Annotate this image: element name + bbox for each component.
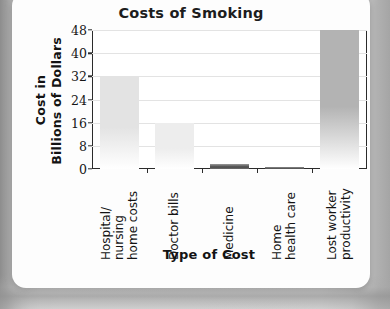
y-axis-title-line-2: Billions of Dollars xyxy=(49,37,64,165)
y-tick-label: 32 xyxy=(71,69,87,84)
bar-slot xyxy=(257,30,312,169)
bar-slot xyxy=(202,30,257,169)
bar xyxy=(210,164,250,169)
bar-slot xyxy=(147,30,202,169)
x-tick-mark xyxy=(312,169,313,173)
bar-slot xyxy=(92,30,147,169)
bar xyxy=(265,167,305,169)
y-tick-label: 24 xyxy=(71,92,87,107)
bar xyxy=(320,30,360,169)
bar-slot xyxy=(312,30,367,169)
y-tick-label: 40 xyxy=(71,46,87,61)
figure-card: Costs of Smoking Cost in Billions of Dol… xyxy=(12,0,370,288)
y-tick-label: 48 xyxy=(71,23,87,38)
bar xyxy=(100,76,140,169)
x-axis-title-text: Type of Cost xyxy=(127,247,255,262)
y-tick-label: 8 xyxy=(79,138,87,153)
x-tick-mark xyxy=(257,169,258,173)
y-axis-title: Cost in Billions of Dollars xyxy=(26,28,70,173)
y-axis-title-line-1: Cost in xyxy=(33,75,48,125)
bar xyxy=(155,123,195,169)
y-tick-label: 0 xyxy=(79,162,87,177)
x-axis-title: Type of Cost xyxy=(12,247,370,262)
plot-wrapper: 081624324048 xyxy=(92,30,367,169)
y-tick-label: 16 xyxy=(71,115,87,130)
x-tick-mark xyxy=(147,169,148,173)
x-tick-mark xyxy=(202,169,203,173)
chart-title: Costs of Smoking xyxy=(12,5,370,21)
